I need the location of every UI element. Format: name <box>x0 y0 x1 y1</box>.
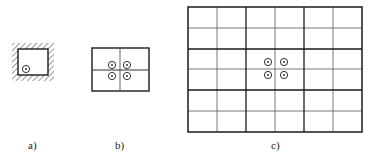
point-source-icon <box>264 58 271 65</box>
panel-b-diagram <box>92 48 149 91</box>
panel-c-label: c) <box>271 139 280 151</box>
point-source-icon <box>280 58 287 65</box>
point-source-icon <box>280 71 287 78</box>
point-source-icon <box>108 72 115 79</box>
cell-boundary <box>18 49 48 75</box>
panel-b-label: b) <box>115 139 124 151</box>
panel-c-diagram <box>188 7 362 132</box>
point-source-icon <box>108 61 115 68</box>
figure-canvas <box>0 0 372 166</box>
panel-a-diagram <box>12 43 54 81</box>
panel-a-label: a) <box>28 139 37 151</box>
point-source-icon <box>123 61 130 68</box>
point-source-icon <box>264 71 271 78</box>
point-source-icon <box>123 72 130 79</box>
point-source-icon <box>22 65 29 72</box>
